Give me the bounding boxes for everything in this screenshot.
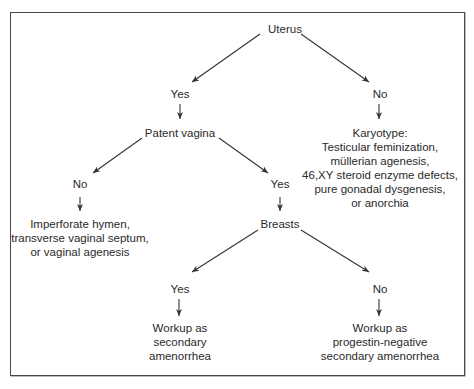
arrow-breasts-yes xyxy=(192,230,258,272)
node-vagina-no: No xyxy=(73,177,88,191)
node-breasts: Breasts xyxy=(261,217,300,231)
node-workup-progestin-negative: Workup as progestin-negative secondary a… xyxy=(321,321,439,363)
node-imperforate: Imperforate hymen, transverse vaginal se… xyxy=(11,217,148,259)
node-breasts-no: No xyxy=(373,282,388,296)
node-workup-secondary: Workup as secondary amenorrhea xyxy=(149,321,211,363)
node-uterus-yes: Yes xyxy=(171,87,190,101)
node-uterus-no: No xyxy=(373,87,388,101)
node-vagina-yes: Yes xyxy=(271,177,290,191)
node-patent-vagina: Patent vagina xyxy=(145,126,215,140)
arrow-breasts-no xyxy=(301,230,369,272)
decision-tree-diagram: Uterus Yes No Patent vagina Karyotype: T… xyxy=(0,0,474,389)
arrow-uterus-no xyxy=(301,34,369,82)
arrow-patent-no xyxy=(93,138,142,173)
node-breasts-yes: Yes xyxy=(171,282,190,296)
node-karyotype: Karyotype: Testicular feminization, müll… xyxy=(302,126,458,210)
node-uterus: Uterus xyxy=(268,22,302,36)
arrow-uterus-yes xyxy=(192,34,260,82)
arrow-patent-yes xyxy=(219,138,268,173)
